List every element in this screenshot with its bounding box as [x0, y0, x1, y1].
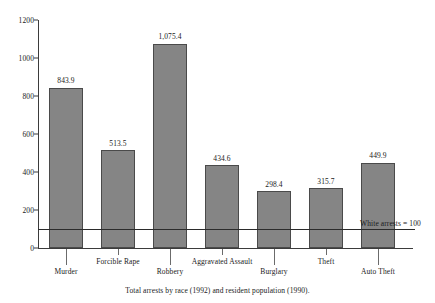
- category-tick-auto-theft: [378, 249, 379, 265]
- category-tick-murder: [66, 249, 67, 265]
- bar-value-label-robbery: 1,075.4: [158, 32, 181, 41]
- y-tick-label-600: 600: [22, 130, 34, 139]
- figure-caption: Total arrests by race (1992) and residen…: [0, 286, 435, 295]
- y-tick-label-1000: 1000: [19, 54, 34, 63]
- category-tick-forcible-rape: [118, 249, 119, 255]
- category-tick-burglary: [274, 249, 275, 265]
- bar-value-label-auto-theft: 449.9: [369, 151, 386, 160]
- bar-value-label-murder: 843.9: [57, 76, 74, 85]
- bar-burglary: [257, 191, 291, 248]
- reference-line-white-arrests: [38, 229, 415, 230]
- y-tick-label-400: 400: [22, 168, 34, 177]
- bar-forcible-rape: [101, 150, 135, 248]
- category-label-aggravated-assault: Aggravated Assault: [192, 257, 253, 266]
- category-label-auto-theft: Auto Theft: [361, 267, 395, 276]
- category-tick-robbery: [170, 249, 171, 265]
- bar-value-label-burglary: 298.4: [265, 180, 282, 189]
- x-axis-line: [38, 248, 413, 249]
- category-label-forcible-rape: Forcible Rape: [96, 257, 140, 266]
- category-label-theft: Theft: [318, 257, 335, 266]
- category-tick-aggravated-assault: [222, 249, 223, 255]
- y-tick-label-800: 800: [22, 92, 34, 101]
- category-label-murder: Murder: [54, 267, 77, 276]
- bar-chart-figure: 1200 1000 800 600 400 200 0 843.9 513.5 …: [0, 0, 435, 303]
- y-tick-label-200: 200: [22, 206, 34, 215]
- bar-theft: [309, 188, 343, 248]
- bar-value-label-aggravated-assault: 434.6: [213, 154, 230, 163]
- y-tick-label-1200: 1200: [19, 16, 34, 25]
- bar-value-label-theft: 315.7: [317, 177, 334, 186]
- bar-aggravated-assault: [205, 165, 239, 248]
- plot-area: [38, 20, 413, 248]
- category-label-burglary: Burglary: [260, 267, 287, 276]
- category-tick-theft: [326, 249, 327, 255]
- bar-auto-theft: [361, 163, 395, 249]
- y-axis: 1200 1000 800 600 400 200 0: [0, 0, 34, 303]
- bar-value-label-forcible-rape: 513.5: [109, 139, 126, 148]
- bar-robbery: [153, 44, 187, 248]
- reference-line-label: White arrests = 100: [360, 219, 421, 228]
- bar-murder: [49, 88, 83, 248]
- category-label-robbery: Robbery: [157, 267, 184, 276]
